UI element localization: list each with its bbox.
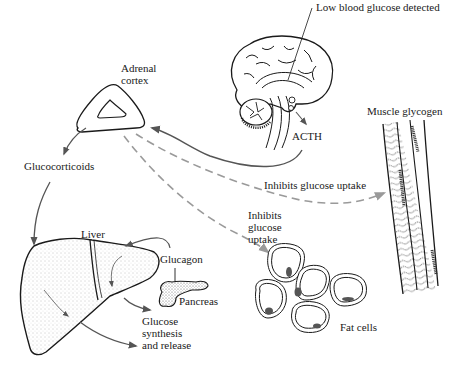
muscle-glycogen-label: Muscle glycogen — [367, 105, 442, 117]
inhibit-fat-dashed-arrow — [124, 136, 268, 252]
pancreas-label: Pancreas — [179, 295, 218, 307]
glucocorticoids-to-liver-arrow — [34, 182, 50, 244]
acth-label: ACTH — [292, 130, 322, 142]
adrenal-label-line2: cortex — [121, 74, 156, 86]
pituitary-acth-arrow — [296, 112, 306, 124]
glucagon-label: Glucagon — [160, 253, 203, 265]
liver-glucose-arrow-2 — [80, 322, 136, 346]
liver-icon — [20, 238, 159, 354]
inhibit-fat-line2: glucose — [248, 221, 282, 233]
fat-cells-label: Fat cells — [340, 321, 377, 333]
glucose-synthesis-line3: and release — [142, 339, 191, 351]
muscle-fiber-icon — [383, 120, 438, 294]
inhibit-muscle-dashed-arrow — [136, 134, 384, 203]
low-glucose-label: Low blood glucose detected — [316, 1, 440, 13]
inhibits-glucose-uptake-fat-label: Inhibits glucose uptake — [248, 209, 282, 245]
adrenal-label-line1: Adrenal — [121, 62, 156, 74]
inhibit-fat-line1: Inhibits — [248, 209, 282, 221]
inhibits-glucose-uptake-muscle-label: Inhibits glucose uptake — [264, 179, 366, 191]
glucose-regulation-diagram: Low blood glucose detected ACTH Adrenal … — [0, 0, 469, 374]
glucose-synthesis-label: Glucose synthesis and release — [142, 315, 191, 351]
fat-cells-icon — [256, 244, 367, 333]
liver-label: Liver — [81, 228, 105, 240]
adrenal-cortex-label: Adrenal cortex — [121, 62, 156, 86]
glucose-synthesis-line1: Glucose — [142, 315, 191, 327]
diagram-artwork — [0, 0, 469, 374]
glucose-synthesis-line2: synthesis — [142, 327, 191, 339]
inhibit-fat-line3: uptake — [248, 233, 282, 245]
adrenal-gland-icon — [77, 85, 145, 132]
brain-icon — [231, 8, 332, 150]
glucocorticoids-label: Glucocorticoids — [24, 160, 94, 172]
liver-glucose-arrow-1 — [124, 298, 150, 310]
